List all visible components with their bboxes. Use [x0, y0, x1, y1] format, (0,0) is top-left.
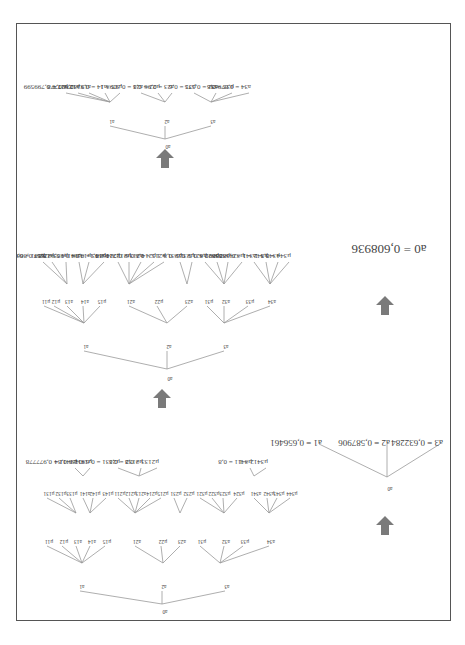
- stage1-level3-label: μ344: [286, 491, 297, 497]
- tree-edge: [163, 546, 180, 563]
- stage1-level3-label: μ232: [183, 491, 194, 497]
- stage1-level3-label: μ143: [102, 491, 113, 497]
- stage2-leaf-value: μ344 = 0,5: [260, 252, 291, 260]
- tree-edge: [167, 306, 187, 323]
- arrow-into-stage4: [376, 516, 394, 535]
- tree-edge: [80, 591, 162, 604]
- tree-edge: [194, 93, 211, 102]
- stage2-level2-label: μ31: [205, 299, 214, 305]
- stage1-level3-label: a341: [250, 491, 261, 497]
- stage1-level3-label: a213: [135, 491, 146, 497]
- tree-edge: [118, 468, 139, 476]
- tree-edge: [84, 351, 167, 369]
- stage2-level2-label: μ22: [155, 299, 164, 305]
- stage1-level3-label: μ323: [219, 491, 230, 497]
- stage1-level2-label: a13: [74, 539, 82, 545]
- stage1-level3-label: μ132: [55, 491, 66, 497]
- tree-edge: [187, 262, 192, 284]
- tree-edge: [118, 262, 129, 284]
- stage1-level3-label: μ322: [208, 491, 219, 497]
- stage2-level1-label: a3: [223, 344, 228, 350]
- tree-edge: [224, 262, 242, 284]
- stage1-level1-label: a2: [161, 584, 166, 590]
- tree-edge: [270, 262, 278, 284]
- stage1-level3-label: a141: [79, 491, 90, 497]
- tree-edge: [165, 93, 172, 102]
- tree-edge: [83, 306, 84, 323]
- arrow-stage1-to-stage2: [153, 389, 171, 408]
- stage1-level3-label: μ342: [263, 491, 274, 497]
- stage2-level2-label: a14: [81, 299, 89, 305]
- stage1-level2-label: μ11: [45, 539, 53, 545]
- stage2-level2-label: μ33: [246, 299, 255, 305]
- tree-edge: [79, 262, 83, 284]
- stage4-level1-value: a1 = 0,656461: [270, 438, 322, 448]
- tree-edge: [211, 93, 249, 102]
- stage4-level1-value: a2 = 0,587906: [338, 438, 390, 448]
- tree-edge: [129, 306, 167, 323]
- stage1-root-label: a0: [162, 609, 167, 615]
- tree-edge: [162, 591, 225, 604]
- tree-edge: [224, 306, 248, 323]
- stage4-level1-value: a3 = 0,632284: [391, 438, 443, 448]
- ahp-hierarchy-diagram: a0a1a2a3μ11μ12a13a14μ15a21μ22a23μ31a32μ3…: [17, 22, 452, 620]
- stage3-level1-label: a2: [164, 119, 169, 125]
- tree-edge: [118, 498, 135, 513]
- tree-edge: [174, 498, 180, 513]
- stage1-level3-label: μ321: [196, 491, 207, 497]
- tree-edge: [200, 546, 220, 563]
- stage1-level3-label: μ343: [273, 491, 284, 497]
- tree-edge: [250, 468, 254, 476]
- tree-edge: [139, 468, 141, 476]
- tree-edge: [223, 498, 224, 513]
- stage1-level2-label: μ31: [198, 539, 207, 545]
- tree-edge: [89, 93, 110, 102]
- stage2-level2-label: a13: [65, 299, 73, 305]
- stage1-level1-label: a3: [224, 584, 229, 590]
- stage3-root-label: a0: [165, 144, 170, 150]
- tree-edge: [66, 262, 67, 284]
- tree-edge: [44, 306, 84, 323]
- stage2-level2-label: μ11: [42, 299, 50, 305]
- tree-edge: [82, 546, 105, 563]
- stage3-level1-label: a3: [210, 119, 215, 125]
- tree-edge: [83, 498, 90, 513]
- stage4-root-label: a0: [387, 486, 392, 492]
- stage1-level3-label: μ324: [233, 491, 244, 497]
- tree-edge: [224, 262, 228, 284]
- stage1-level2-label: a21: [133, 539, 141, 545]
- tree-edge: [110, 93, 120, 102]
- tree-edge: [269, 498, 277, 513]
- tree-edge: [52, 262, 67, 284]
- tree-edge: [167, 351, 224, 369]
- tree-edge: [269, 498, 290, 513]
- stage2-level1-label: a2: [166, 344, 171, 350]
- tree-edge: [139, 468, 157, 476]
- stage1-level3-label: μ211: [114, 491, 125, 497]
- stage3-leaf-value: a34 = 0,87963: [210, 83, 251, 91]
- stage2-level2-label: μ12: [52, 299, 61, 305]
- stage1-level3-label: μ214: [146, 491, 157, 497]
- tree-edge: [217, 262, 224, 284]
- stage1-level2-label: μ33: [241, 539, 250, 545]
- rotated-diagram-sheet: a0a1a2a3μ11μ12a13a14μ15a21μ22a23μ31a32μ3…: [16, 23, 451, 621]
- tree-edge: [78, 93, 110, 102]
- tree-edge: [84, 306, 100, 323]
- tree-edge: [66, 93, 110, 102]
- tree-edge: [161, 546, 163, 563]
- stage1-level3-label: μ215: [157, 491, 168, 497]
- tree-edge: [129, 262, 154, 284]
- arrow-to-result: [376, 296, 394, 315]
- tree-edge: [110, 126, 165, 139]
- stage2-level1-label: a1: [83, 344, 88, 350]
- stage1-level2-label: a14: [88, 539, 96, 545]
- tree-edge: [135, 546, 163, 563]
- tree-edge: [205, 262, 224, 284]
- stage1-level3-label: μ142: [89, 491, 100, 497]
- tree-edge: [270, 262, 289, 284]
- stage1-level3-label: μ212: [125, 491, 136, 497]
- stage2-level2-label: a34: [268, 299, 276, 305]
- stage2-root-label: a0: [167, 376, 172, 382]
- stage1-level3-label: μ231: [170, 491, 181, 497]
- tree-edge: [75, 468, 83, 476]
